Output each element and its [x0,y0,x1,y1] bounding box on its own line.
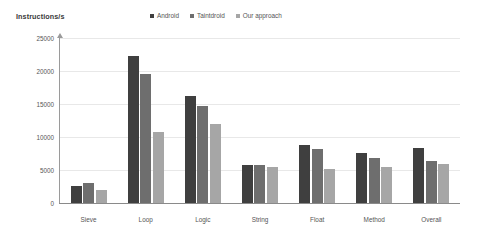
bar[interactable] [381,167,392,203]
x-axis-line [59,203,460,204]
bar[interactable] [140,74,151,203]
bar[interactable] [312,149,323,203]
bar-group [289,38,346,203]
bar[interactable] [267,167,278,203]
bar[interactable] [210,124,221,203]
bar[interactable] [413,148,424,203]
bar-group [117,38,174,203]
bar-group [60,38,117,203]
bar[interactable] [426,161,437,203]
y-axis-tick-label: 25000 [10,35,54,42]
y-axis-tick-label: 10000 [10,134,54,141]
legend-swatch-taintdroid [190,14,194,18]
bar[interactable] [356,153,367,203]
y-axis-tick-label: 5000 [10,167,54,174]
legend-item-android[interactable]: Android [150,13,179,19]
bar[interactable] [71,186,82,203]
bar-group [231,38,288,203]
legend-item-our-approach[interactable]: Our approach [236,13,282,19]
x-axis-tick-cell: Method [346,208,403,226]
x-axis-tick-cell: String [231,208,288,226]
bar-group [346,38,403,203]
x-axis-tick-label: Sieve [81,216,97,223]
bar[interactable] [369,158,380,203]
x-axis-tick-cell: Overall [403,208,460,226]
y-axis-tick-labels: 0500010000150002000025000 [6,38,54,203]
chart-title: Instructions/s [16,12,65,21]
bar[interactable] [299,145,310,203]
bar[interactable] [324,169,335,203]
bar[interactable] [153,132,164,203]
bar[interactable] [438,164,449,203]
y-axis-tick-label: 20000 [10,68,54,75]
x-axis-tick-label: Overall [421,216,441,223]
bar[interactable] [128,56,139,203]
x-axis-tick-label: Logic [195,216,210,223]
legend-label-android: Android [157,13,179,19]
x-axis-tick-label: Float [310,216,324,223]
x-axis-tick-label: String [252,216,269,223]
x-axis-tick-cell: Logic [174,208,231,226]
bar[interactable] [185,96,196,203]
y-axis-tick-label: 0 [10,200,54,207]
bar[interactable] [83,183,94,203]
legend-item-taintdroid[interactable]: Taintdroid [190,13,225,19]
bar-group [174,38,231,203]
x-axis-tick-labels: SieveLoopLogicStringFloatMethodOverall [60,208,460,226]
bar-groups [60,38,460,203]
legend-swatch-our-approach [236,14,240,18]
x-axis-tick-label: Method [364,216,385,223]
bar[interactable] [254,165,265,203]
x-axis-tick-label: Loop [139,216,153,223]
bar[interactable] [242,165,253,203]
bar[interactable] [197,106,208,203]
bar-group [403,38,460,203]
legend-label-our-approach: Our approach [243,13,282,19]
x-axis-tick-cell: Loop [117,208,174,226]
y-axis-tick-label: 15000 [10,101,54,108]
x-axis-tick-cell: Sieve [60,208,117,226]
legend-label-taintdroid: Taintdroid [197,13,225,19]
chart-legend: Android Taintdroid Our approach [150,13,282,19]
x-axis-tick-cell: Float [289,208,346,226]
bar[interactable] [96,190,107,203]
legend-swatch-android [150,14,154,18]
chart-figure: Instructions/s Android Taintdroid Our ap… [0,0,479,238]
